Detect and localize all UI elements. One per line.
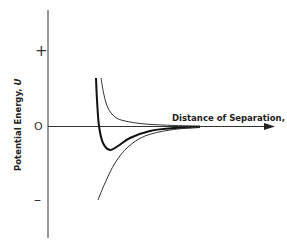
- y-tick-minus: –: [34, 193, 41, 205]
- x-axis-arrowhead-icon: [264, 123, 275, 130]
- attractive-energy-curve: [98, 127, 200, 200]
- y-axis-label: Potential Energy, U: [13, 81, 23, 171]
- y-axis-label-text: Potential Energy,: [13, 85, 23, 171]
- x-axis-label: Distance of Separation, r: [172, 113, 287, 123]
- y-axis-variable: U: [13, 79, 23, 86]
- x-axis-label-text: Distance of Separation,: [172, 113, 287, 123]
- potential-energy-diagram: [0, 0, 287, 252]
- y-tick-zero-label: O: [34, 121, 43, 133]
- y-tick-plus: +: [35, 45, 48, 57]
